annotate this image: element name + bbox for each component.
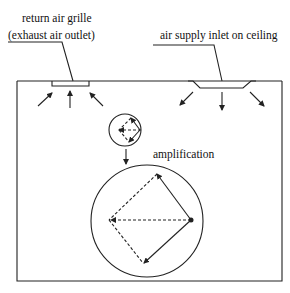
room-airflow-diagram: return air grille (exhaust air outlet) a…: [0, 0, 290, 293]
supply-inlet-leader: [153, 45, 222, 81]
return-grille-leader: [8, 42, 73, 81]
return-grille-label: return air grille: [22, 12, 92, 25]
amplification-label: amplification: [153, 148, 215, 161]
small-vector-circle: [109, 114, 141, 146]
supply-airflow-arrows: [180, 92, 264, 110]
supply-air-diffuser: [188, 81, 256, 88]
supply-inlet-label: air supply inlet on ceiling: [160, 29, 278, 42]
return-air-grille: [52, 81, 89, 86]
return-grille-sublabel: (exhaust air outlet): [8, 29, 95, 42]
return-airflow-arrows: [38, 91, 103, 108]
large-vector-circle: [91, 165, 203, 277]
